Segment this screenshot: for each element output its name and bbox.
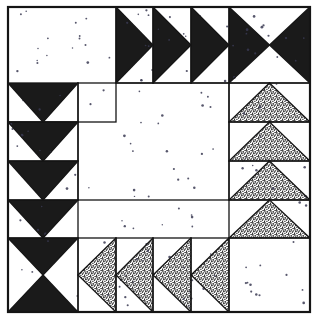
speckle-dot	[303, 166, 306, 169]
speckle-dot	[37, 229, 39, 231]
speckle-dot	[261, 26, 264, 29]
speckle-dot	[162, 224, 163, 225]
plain-square-bottom-right-ground	[229, 238, 310, 312]
speckle-dot	[148, 14, 150, 16]
speckle-dot	[107, 294, 109, 296]
speckle-dot	[145, 45, 147, 47]
speckle-dot	[214, 275, 216, 277]
speckle-dot	[41, 206, 42, 207]
speckle-dot	[255, 169, 257, 171]
speckle-dot	[183, 267, 185, 269]
speckle-dot	[185, 35, 187, 37]
speckle-dot	[59, 95, 61, 97]
flying-geese-left-1	[8, 83, 78, 122]
speckle-dot	[31, 271, 33, 273]
speckle-dot	[72, 47, 73, 48]
speckle-dot	[86, 61, 89, 64]
speckle-dot	[37, 48, 39, 50]
speckle-dot	[126, 22, 128, 24]
speckle-dot	[157, 123, 159, 125]
plain-square-center-ground	[78, 83, 229, 200]
speckle-dot	[132, 150, 134, 152]
speckle-dot	[186, 70, 188, 72]
speckle-dot	[19, 219, 21, 221]
speckle-dot	[173, 168, 175, 170]
speckle-dot	[137, 13, 139, 15]
speckle-dot	[39, 150, 41, 152]
speckle-dot	[103, 241, 106, 244]
speckle-dot	[25, 11, 27, 13]
plain-square-bottom-right	[229, 238, 310, 312]
speckle-dot	[134, 196, 135, 197]
flying-geese-bottom-3	[153, 238, 191, 312]
flying-geese-bottom-1	[78, 238, 116, 312]
speckle-dot	[136, 258, 138, 260]
speckle-dot	[243, 112, 245, 114]
speckle-dot	[142, 260, 143, 261]
half-square-triangle-top-3	[191, 7, 229, 83]
speckle-dot	[158, 28, 160, 30]
speckle-dot	[212, 148, 214, 150]
flying-geese-left-3	[8, 161, 78, 200]
speckle-dot	[254, 52, 256, 54]
speckle-dot	[245, 157, 247, 159]
speckle-dot	[74, 174, 76, 176]
speckle-dot	[75, 22, 77, 24]
speckle-dot	[140, 122, 142, 124]
speckle-dot	[245, 266, 247, 268]
speckle-dot	[16, 70, 18, 72]
speckle-dot	[161, 114, 164, 117]
speckle-dot	[250, 291, 252, 293]
speckle-dot	[302, 289, 304, 291]
speckle-dot	[249, 283, 252, 286]
speckle-dot	[124, 275, 125, 276]
speckle-dot	[123, 134, 126, 137]
flying-geese-right-3	[229, 161, 310, 200]
plain-square-center	[78, 83, 229, 200]
speckle-dot	[147, 250, 149, 252]
speckle-dot	[133, 227, 135, 229]
speckle-dot	[246, 28, 249, 31]
flying-geese-bottom-2	[116, 238, 153, 312]
speckle-dot	[191, 226, 193, 228]
quilt-block-diagram	[0, 0, 319, 322]
speckle-dot	[166, 150, 168, 152]
speckle-dot	[259, 106, 262, 109]
speckle-dot	[36, 60, 38, 62]
speckle-dot	[226, 26, 228, 28]
speckle-dot	[298, 201, 301, 204]
speckle-dot	[201, 153, 203, 155]
speckle-dot	[79, 35, 81, 37]
speckle-dot	[109, 57, 111, 59]
speckle-dot	[193, 186, 196, 189]
speckle-dot	[252, 165, 254, 167]
quilt-block-canvas	[0, 0, 319, 322]
speckle-dot	[188, 305, 190, 307]
flying-geese-right-1	[229, 83, 310, 122]
speckle-dot	[38, 108, 40, 110]
speckle-dot	[133, 189, 136, 192]
speckle-dot	[130, 143, 132, 145]
flying-geese-left-4	[8, 200, 78, 238]
speckle-dot	[20, 13, 22, 15]
speckle-dot	[66, 187, 69, 190]
speckle-dot	[285, 274, 287, 276]
speckle-dot	[36, 62, 38, 64]
speckle-dot	[168, 39, 170, 41]
speckle-dot	[252, 189, 254, 191]
speckle-dot	[88, 187, 90, 189]
speckle-dot	[259, 136, 261, 138]
speckle-dot	[178, 207, 180, 209]
speckle-dot	[139, 90, 141, 92]
half-square-triangle-top-2	[153, 7, 191, 83]
speckle-dot	[148, 45, 150, 47]
speckle-dot	[119, 286, 121, 288]
speckle-dot	[305, 204, 307, 206]
half-square-triangle-top-1	[116, 7, 153, 83]
speckle-dot	[224, 80, 227, 83]
speckle-dot	[169, 16, 171, 18]
speckle-dot	[302, 302, 305, 305]
speckle-dot	[177, 179, 179, 181]
speckle-dot	[200, 92, 202, 94]
speckle-dot	[253, 15, 256, 18]
